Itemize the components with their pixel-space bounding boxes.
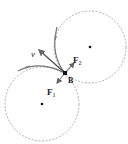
upper-center-dot — [89, 46, 92, 49]
physics-diagram: v F2 F1 B — [0, 0, 128, 144]
velocity-label: v — [31, 49, 35, 59]
force1-label: F1 — [47, 87, 56, 98]
point-b-marker — [63, 71, 67, 75]
lower-center-dot — [41, 103, 44, 106]
point-b-label: B — [68, 76, 74, 85]
force2-label: F2 — [73, 55, 82, 66]
velocity-arrow-icon — [39, 50, 65, 73]
